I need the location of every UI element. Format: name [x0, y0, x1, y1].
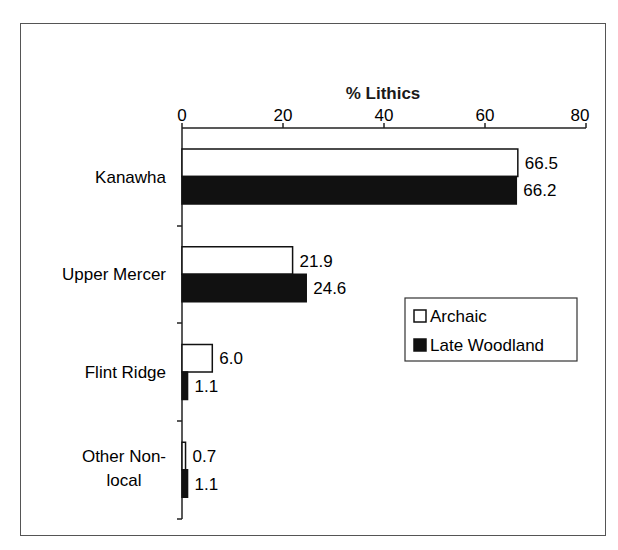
value-label-kanawha-archaic: 66.5: [525, 154, 558, 173]
bar-kanawha-archaic: [182, 149, 518, 177]
bar-other-non-local-late-woodland: [182, 470, 188, 498]
value-label-flint-ridge-late-woodland: 1.1: [195, 377, 219, 396]
value-label-upper-mercer-archaic: 21.9: [300, 252, 333, 271]
value-label-flint-ridge-archaic: 6.0: [219, 349, 243, 368]
category-label-upper-mercer: Upper Mercer: [62, 265, 166, 284]
x-tick-labels: 0 20 40 60 80: [177, 106, 589, 125]
x-tick-label: 0: [177, 106, 186, 125]
legend-swatch-archaic: [414, 310, 426, 322]
x-tick-label: 20: [274, 106, 293, 125]
value-label-kanawha-late-woodland: 66.2: [523, 181, 556, 200]
legend: Archaic Late Woodland: [405, 298, 577, 361]
bar-other-non-local-archaic: [182, 442, 186, 470]
bar-flint-ridge-archaic: [182, 345, 212, 373]
category-label-other-non-local-line2: local: [107, 471, 142, 490]
value-label-upper-mercer-late-woodland: 24.6: [313, 279, 346, 298]
category-label-kanawha: Kanawha: [95, 168, 166, 187]
legend-label-late-woodland: Late Woodland: [430, 336, 544, 355]
x-tick-label: 60: [476, 106, 495, 125]
bar-chart: % Lithics 0 20 40 60 80 Kanawha Upper Me…: [0, 0, 618, 550]
category-labels: Kanawha Upper Mercer Flint Ridge Other N…: [62, 168, 166, 490]
x-tick-label: 80: [571, 106, 590, 125]
bar-flint-ridge-late-woodland: [182, 372, 188, 400]
legend-swatch-late-woodland: [414, 339, 426, 351]
category-label-flint-ridge: Flint Ridge: [85, 363, 166, 382]
value-label-other-non-local-late-woodland: 1.1: [195, 475, 219, 494]
bar-upper-mercer-archaic: [182, 247, 293, 275]
bar-upper-mercer-late-woodland: [182, 274, 306, 302]
category-label-other-non-local: Other Non-: [82, 447, 166, 466]
x-axis: [182, 123, 586, 128]
x-tick-label: 40: [375, 106, 394, 125]
value-label-other-non-local-archaic: 0.7: [193, 447, 217, 466]
bar-kanawha-late-woodland: [182, 177, 516, 205]
axis-title: % Lithics: [346, 84, 421, 103]
legend-label-archaic: Archaic: [430, 307, 487, 326]
